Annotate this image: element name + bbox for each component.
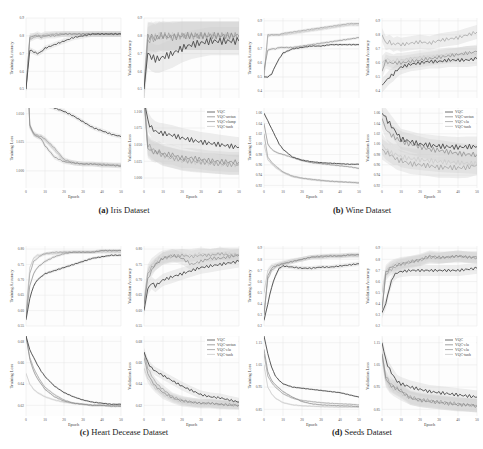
legend-entry: VQC-tanh xyxy=(217,125,233,129)
y-tick-label: 1.02 xyxy=(374,132,380,136)
y-axis-label: Training Loss xyxy=(9,136,14,161)
y-axis-label: Validation Loss xyxy=(365,362,370,390)
x-tick-label: 10 xyxy=(281,190,285,194)
y-tick-label: 1.15 xyxy=(256,341,262,345)
y-tick-label: 0.5 xyxy=(258,75,263,79)
figure-heart: 0.550.600.650.700.750.80Training Accurac… xyxy=(4,228,244,449)
y-tick-label: 0.75 xyxy=(18,263,24,267)
legend-entry: VQC xyxy=(217,110,225,114)
y-tick-label: 0.70 xyxy=(136,278,142,282)
y-tick-label: 1.00 xyxy=(256,142,262,146)
panel-val-loss: 1.0001.0251.0501.0751.100Validation Loss… xyxy=(127,88,241,199)
y-tick-label: 0.94 xyxy=(256,173,262,177)
x-tick-label: 0 xyxy=(25,418,27,422)
x-tick-label: 0 xyxy=(263,190,265,194)
y-tick-label: 0.98 xyxy=(374,153,380,157)
y-tick-label: 0.8 xyxy=(138,34,143,38)
y-tick-label: 0.62 xyxy=(18,404,24,408)
x-tick-label: 30 xyxy=(81,190,85,194)
y-axis-label: Training Loss xyxy=(9,364,14,389)
y-tick-label: 0.65 xyxy=(18,293,24,297)
panel-train-acc: 0.40.50.60.70.80.9Training Accuracy xyxy=(247,18,359,98)
x-tick-label: 40 xyxy=(456,418,460,422)
y-tick-label: 1.025 xyxy=(16,140,24,144)
x-tick-label: 30 xyxy=(199,190,203,194)
x-tick-label: 30 xyxy=(199,418,203,422)
x-tick-label: 40 xyxy=(218,190,222,194)
legend-entry: VQC-elu xyxy=(455,343,469,347)
x-axis-label: Epoch xyxy=(424,194,436,199)
x-tick-label: 0 xyxy=(143,418,145,422)
y-tick-label: 0.60 xyxy=(136,309,142,313)
y-tick-label: 0.7 xyxy=(20,52,25,56)
x-tick-label: 50 xyxy=(475,418,479,422)
legend-entry: VQC xyxy=(455,110,463,114)
legend-entry: VQC-tanh xyxy=(217,353,233,357)
y-tick-label: 0.64 xyxy=(136,382,142,386)
y-axis-label: Validation Loss xyxy=(365,134,370,162)
x-tick-label: 50 xyxy=(237,190,241,194)
panel-train-loss: 0.920.940.960.981.001.021.041.06Training… xyxy=(247,108,361,199)
y-tick-label: 0.6 xyxy=(376,280,381,284)
panel-train-loss: 0.850.951.051.15Training Loss01020304050… xyxy=(247,335,361,427)
y-tick-label: 0.3 xyxy=(258,313,263,317)
x-tick-label: 40 xyxy=(338,418,342,422)
y-tick-label: 0.85 xyxy=(256,408,262,412)
x-tick-label: 10 xyxy=(43,190,47,194)
y-tick-label: 0.98 xyxy=(256,153,262,157)
legend-entry: VQC-clamp xyxy=(217,120,236,124)
y-tick-label: 1.04 xyxy=(374,122,380,126)
y-tick-label: 0.7 xyxy=(258,47,263,51)
y-tick-label: 0.92 xyxy=(256,184,262,188)
y-tick-label: 0.5 xyxy=(258,291,263,295)
y-tick-label: 0.8 xyxy=(376,258,381,262)
x-tick-label: 10 xyxy=(399,418,403,422)
y-tick-label: 0.55 xyxy=(18,324,24,328)
x-tick-label: 50 xyxy=(119,190,123,194)
figure-seeds: 0.20.30.40.50.60.70.80.9Training Accurac… xyxy=(242,228,482,449)
y-tick-label: 1.00 xyxy=(374,142,380,146)
legend: VQCVQC-eluVQC-eluVQC-tanh xyxy=(443,337,476,358)
y-tick-label: 0.9 xyxy=(258,19,263,23)
y-axis-label: Validation Accuracy xyxy=(365,39,370,76)
x-tick-label: 10 xyxy=(161,190,165,194)
y-tick-label: 1.000 xyxy=(16,169,24,173)
y-tick-label: 1.075 xyxy=(134,126,142,130)
x-tick-label: 10 xyxy=(399,190,403,194)
y-tick-label: 0.7 xyxy=(376,269,381,273)
y-tick-label: 0.6 xyxy=(20,70,25,74)
x-tick-label: 20 xyxy=(180,418,184,422)
y-tick-label: 0.95 xyxy=(256,385,262,389)
panel-train-acc: 0.20.30.40.50.60.70.80.9Training Accurac… xyxy=(247,246,359,328)
x-tick-label: 50 xyxy=(357,190,361,194)
x-tick-label: 0 xyxy=(143,190,145,194)
caption-title: Iris Dataset xyxy=(111,205,150,215)
x-axis-label: Epoch xyxy=(306,194,318,199)
y-tick-label: 0.75 xyxy=(136,263,142,267)
y-tick-label: 0.4 xyxy=(376,302,381,306)
y-tick-label: 0.8 xyxy=(20,34,25,38)
y-tick-label: 0.2 xyxy=(258,324,263,328)
y-tick-label: 0.80 xyxy=(18,247,24,251)
legend-entry: VQC xyxy=(217,338,225,342)
y-tick-label: 0.68 xyxy=(136,340,142,344)
y-axis-label: Training Loss xyxy=(247,136,252,161)
y-tick-label: 0.8 xyxy=(258,33,263,37)
x-tick-label: 50 xyxy=(237,418,241,422)
x-tick-label: 30 xyxy=(81,418,85,422)
x-tick-label: 30 xyxy=(437,418,441,422)
y-tick-label: 0.96 xyxy=(256,163,262,167)
x-tick-label: 10 xyxy=(43,418,47,422)
figure-caption: (c) Heart Decease Dataset xyxy=(4,427,244,437)
y-tick-label: 0.5 xyxy=(376,291,381,295)
panel-train-acc: 0.50.60.70.80.9Training Accuracy xyxy=(9,16,121,98)
panel-train-loss: 0.620.640.660.68Training Loss01020304050… xyxy=(9,335,123,427)
x-tick-label: 30 xyxy=(319,190,323,194)
legend-entry: VQC-arctan xyxy=(217,343,236,347)
y-tick-label: 0.4 xyxy=(258,89,263,93)
y-axis-label: Training Loss xyxy=(247,364,252,389)
y-axis-label: Validation Accuracy xyxy=(365,267,370,304)
y-axis-label: Validation Accuracy xyxy=(127,39,132,76)
y-tick-label: 1.05 xyxy=(256,363,262,367)
y-tick-label: 1.100 xyxy=(134,110,142,114)
